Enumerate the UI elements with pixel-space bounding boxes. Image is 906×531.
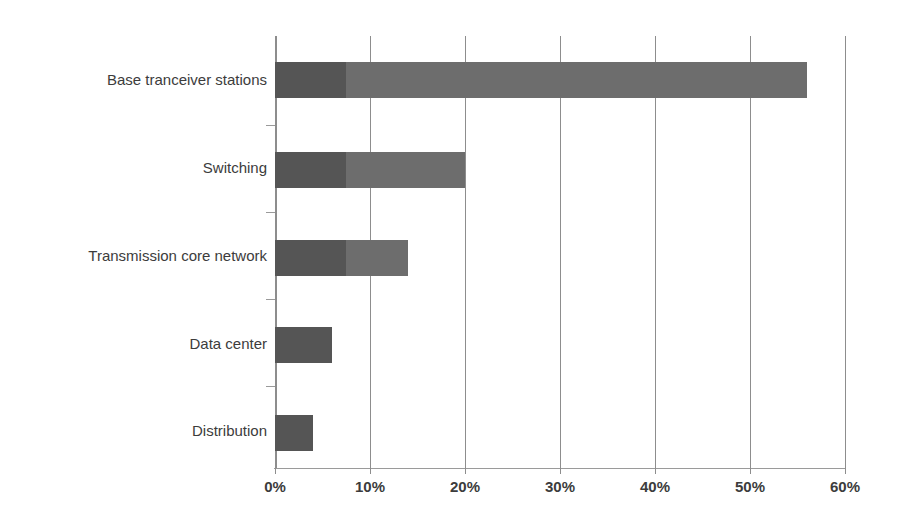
category-label-distribution: Distribution	[5, 422, 267, 440]
x-tick-60	[845, 462, 846, 474]
x-tick-10	[370, 462, 371, 474]
bar-segment-dark	[275, 415, 313, 451]
y-tick-3	[266, 299, 275, 300]
bar-distribution	[275, 415, 313, 451]
plot-area	[275, 36, 845, 468]
bar-segment-dark	[275, 152, 346, 188]
x-tick-0	[275, 462, 276, 474]
bar-segment-light	[346, 240, 408, 276]
bar-base-tranceiver-stations	[275, 62, 807, 98]
y-tick-2	[266, 212, 275, 213]
gridline-40	[655, 36, 656, 468]
bar-segment-dark	[275, 327, 332, 363]
x-axis-label-30: 30%	[530, 478, 590, 495]
x-tick-30	[560, 462, 561, 474]
bar-switching	[275, 152, 465, 188]
gridline-20	[465, 36, 466, 468]
category-label-transmission-core-network: Transmission core network	[5, 247, 267, 265]
gridline-50	[750, 36, 751, 468]
bar-segment-dark	[275, 240, 346, 276]
x-axis-label-60: 60%	[815, 478, 875, 495]
x-axis-label-0: 0%	[245, 478, 305, 495]
bar-segment-light	[346, 152, 465, 188]
category-label-switching: Switching	[5, 159, 267, 177]
bar-segment-dark	[275, 62, 346, 98]
gridline-30	[560, 36, 561, 468]
x-axis-label-50: 50%	[720, 478, 780, 495]
bar-chart: Base tranceiver stations Switching Trans…	[0, 0, 906, 531]
x-axis-label-10: 10%	[340, 478, 400, 495]
x-tick-40	[655, 462, 656, 474]
bar-segment-light	[346, 62, 807, 98]
bar-transmission-core-network	[275, 240, 408, 276]
category-label-base-tranceiver-stations: Base tranceiver stations	[5, 71, 267, 89]
x-axis-label-40: 40%	[625, 478, 685, 495]
x-tick-20	[465, 462, 466, 474]
y-tick-4	[266, 386, 275, 387]
bar-data-center	[275, 327, 332, 363]
x-axis-label-20: 20%	[435, 478, 495, 495]
y-tick-1	[266, 125, 275, 126]
gridline-60	[845, 36, 846, 468]
x-tick-50	[750, 462, 751, 474]
category-label-data-center: Data center	[5, 335, 267, 353]
